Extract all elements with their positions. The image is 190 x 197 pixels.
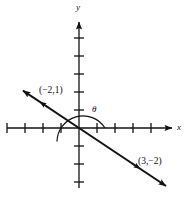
x-axis-label: x (177, 123, 181, 132)
point-label-negative-two-one: (−2,1) (39, 86, 63, 96)
x-axis (7, 123, 172, 133)
figure-canvas (0, 0, 190, 197)
coordinate-plane-figure: y x (−2,1) (3,−2) θ (0, 0, 190, 197)
theta-angle-label: θ (92, 105, 96, 114)
point-label-three-negative-two: (3,−2) (138, 157, 162, 167)
y-axis-label: y (76, 3, 80, 12)
y-axis (74, 22, 84, 188)
line-direction-marker-upper (42, 103, 48, 107)
